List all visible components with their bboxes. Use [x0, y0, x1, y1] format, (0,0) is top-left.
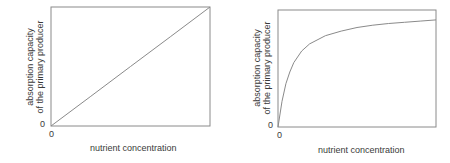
x-tick-zero: 0	[277, 130, 282, 140]
data-line	[278, 20, 436, 127]
y-tick-zero: 0	[268, 120, 273, 130]
x-tick-zero: 0	[49, 129, 54, 139]
x-axis-label: nutrient concentration	[90, 143, 177, 153]
x-axis-label: nutrient concentration	[318, 145, 405, 155]
y-axis-label: absorption capacity of the primary produ…	[25, 7, 45, 127]
y-tick-zero: 0	[40, 119, 45, 129]
y-axis-label: absorption capacity of the primary produ…	[252, 8, 272, 128]
linear-chart: absorption capacity of the primary produ…	[0, 0, 225, 163]
data-line	[51, 7, 210, 126]
saturating-chart: absorption capacity of the primary produ…	[225, 0, 450, 163]
